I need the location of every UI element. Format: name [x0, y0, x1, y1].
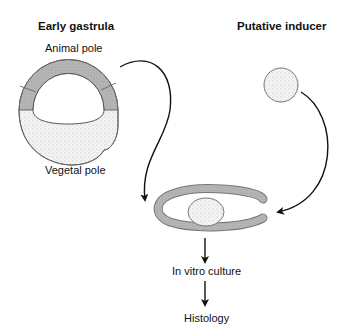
putative-inducer-sphere [264, 68, 298, 102]
early-gastrula [19, 59, 118, 165]
in-vitro-culture-label: In vitro culture [172, 265, 241, 277]
early-gastrula-heading: Early gastrula [38, 20, 114, 32]
curved-arrow-from-gastrula [120, 61, 171, 200]
inducer-in-sandwich [188, 198, 224, 226]
putative-inducer-heading: Putative inducer [237, 20, 326, 32]
animal-pole-label: Animal pole [45, 42, 102, 54]
vegetal-pole-label: Vegetal pole [45, 164, 106, 176]
animal-cap-sandwich [158, 189, 263, 227]
histology-label: Histology [184, 312, 229, 324]
curved-arrow-from-inducer [278, 92, 328, 212]
